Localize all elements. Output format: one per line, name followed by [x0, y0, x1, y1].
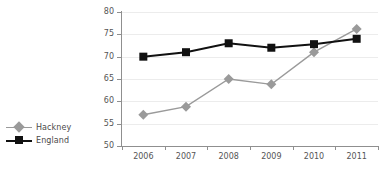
- data-point-hackney-2007[interactable]: [181, 102, 191, 112]
- data-point-hackney-2006[interactable]: [138, 110, 148, 120]
- x-axis-tick: [165, 146, 166, 150]
- y-axis-tick: [117, 79, 122, 80]
- y-axis-tick: [117, 101, 122, 102]
- x-axis-label: 2008: [209, 152, 249, 161]
- y-axis-label: 65: [95, 75, 114, 83]
- data-point-hackney-2011[interactable]: [352, 24, 362, 34]
- x-axis-tick: [250, 146, 251, 150]
- y-axis-label: 60: [95, 97, 114, 105]
- y-axis-label: 70: [95, 53, 114, 61]
- line-chart-figure: 50556065707580200620072008200920102011 H…: [0, 0, 386, 172]
- x-axis-label: 2010: [294, 152, 334, 161]
- series-line-england: [143, 39, 356, 57]
- hackney-legend-key: [6, 121, 32, 134]
- y-axis-tick: [117, 124, 122, 125]
- square-marker-icon: [15, 136, 23, 144]
- x-axis-label: 2006: [123, 152, 163, 161]
- y-axis-tick: [117, 34, 122, 35]
- y-axis-label: 75: [95, 30, 114, 38]
- data-point-england-2011[interactable]: [353, 35, 361, 43]
- x-axis-tick: [122, 146, 123, 150]
- x-axis-tick: [378, 146, 379, 150]
- diamond-marker-icon: [13, 121, 24, 132]
- england-legend-key: [6, 134, 32, 147]
- data-point-england-2007[interactable]: [182, 48, 190, 56]
- x-axis-tick: [335, 146, 336, 150]
- data-point-england-2010[interactable]: [310, 40, 318, 48]
- legend-item-hackney[interactable]: Hackney: [6, 121, 98, 134]
- data-point-hackney-2008[interactable]: [224, 74, 234, 84]
- chart-legend: Hackney England: [6, 121, 98, 147]
- x-axis-label: 2009: [251, 152, 291, 161]
- x-axis-tick: [293, 146, 294, 150]
- y-axis-label: 80: [95, 8, 114, 16]
- legend-label-england: England: [32, 136, 69, 145]
- x-axis-label: 2007: [166, 152, 206, 161]
- x-axis-tick: [207, 146, 208, 150]
- data-point-england-2009[interactable]: [267, 44, 275, 52]
- y-axis-tick: [117, 57, 122, 58]
- legend-label-hackney: Hackney: [32, 123, 71, 132]
- x-axis-label: 2011: [337, 152, 377, 161]
- data-point-england-2008[interactable]: [225, 39, 233, 47]
- y-axis-tick: [117, 12, 122, 13]
- data-point-england-2006[interactable]: [139, 53, 147, 61]
- legend-item-england[interactable]: England: [6, 134, 98, 147]
